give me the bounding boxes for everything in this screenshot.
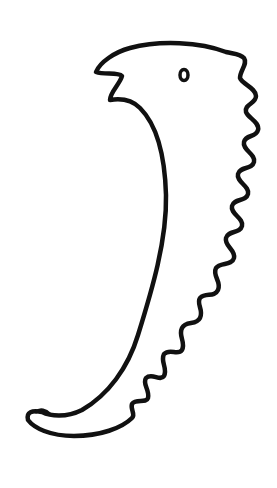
creature-sketch (0, 0, 277, 488)
sketch-canvas (0, 0, 277, 488)
eye-icon (180, 70, 188, 81)
creature-outline (28, 43, 259, 436)
